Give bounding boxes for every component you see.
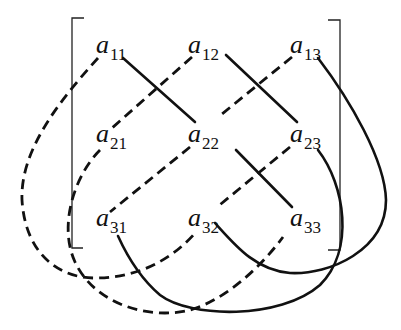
dashed-diagonals — [22, 57, 292, 313]
entry-a22: a22 — [188, 121, 219, 147]
dashed-a11-loop-a32 — [22, 58, 196, 278]
entry-sub: 13 — [304, 45, 321, 64]
entry-sub: 32 — [202, 218, 219, 237]
entry-base: a — [96, 203, 109, 232]
entry-base: a — [96, 119, 109, 148]
entry-a32: a32 — [188, 205, 219, 231]
left-bracket — [72, 18, 84, 248]
entry-base: a — [188, 119, 201, 148]
entry-a33: a33 — [290, 205, 321, 231]
entry-sub: 21 — [110, 134, 127, 153]
dashed-a22-a31 — [110, 147, 190, 212]
solid-a11-a22 — [123, 58, 195, 122]
entry-base: a — [188, 30, 201, 59]
dashed-a12-a21 — [112, 57, 192, 128]
dashed-a23-a32 — [216, 147, 290, 208]
entry-a11: a11 — [96, 32, 126, 58]
entry-sub: 22 — [202, 134, 219, 153]
entry-a23: a23 — [290, 121, 321, 147]
entry-sub: 12 — [202, 45, 219, 64]
entry-base: a — [290, 203, 303, 232]
entry-a13: a13 — [290, 32, 321, 58]
entry-sub: 11 — [110, 45, 126, 64]
entry-base: a — [290, 30, 303, 59]
entry-base: a — [290, 119, 303, 148]
entry-a12: a12 — [188, 32, 219, 58]
entry-sub: 33 — [304, 218, 321, 237]
entry-a31: a31 — [96, 205, 127, 231]
entry-a21: a21 — [96, 121, 127, 147]
entry-base: a — [96, 30, 109, 59]
right-bracket — [328, 20, 340, 250]
solid-a12-a23 — [226, 55, 297, 122]
solid-a22-a33 — [236, 150, 292, 207]
entry-sub: 23 — [304, 134, 321, 153]
entry-base: a — [188, 203, 201, 232]
solid-a13-loop-a32 — [215, 58, 386, 273]
entry-sub: 31 — [110, 218, 127, 237]
